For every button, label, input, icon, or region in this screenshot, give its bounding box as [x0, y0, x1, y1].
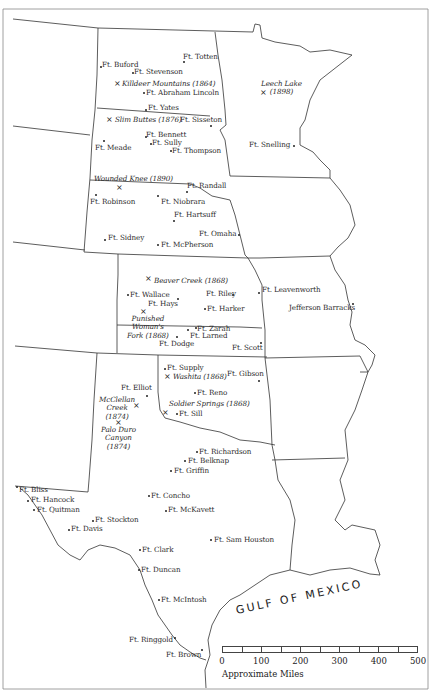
scale-bar-segments: [222, 646, 418, 653]
crossed-swords-battle-icon: ⨯: [116, 184, 123, 192]
fort-marker-icon: [104, 239, 106, 241]
fort-label: Ft. Hays: [148, 300, 178, 307]
fort-label: Ft. Leavenworth: [262, 286, 321, 293]
scale-segment: [399, 647, 418, 652]
fort-marker-icon: [27, 500, 29, 502]
crossed-swords-battle-icon: ⨯: [145, 275, 152, 283]
fort-label: Ft. Meade: [95, 144, 131, 151]
fort-marker-icon: [127, 294, 129, 296]
battle-label: Wounded Knee (1890): [94, 175, 173, 182]
fort-marker-icon: [139, 549, 141, 551]
fort-label: Ft. Riley: [206, 290, 236, 297]
fort-label: Ft. Sisseton: [180, 116, 222, 123]
battle-label: Punished Woman's Fork (1868): [127, 315, 169, 340]
fort-label: Ft. Abraham Lincoln: [146, 89, 219, 96]
fort-label: Ft. Randall: [187, 182, 226, 189]
scale-segment: [360, 647, 380, 652]
scale-tick-label: 400: [371, 656, 387, 666]
fort-marker-icon: [164, 368, 166, 370]
scale-tick-label: 200: [292, 656, 308, 666]
fort-label: Ft. Brown: [166, 651, 201, 658]
fort-marker-icon: [157, 244, 159, 246]
fort-marker-icon: [210, 125, 212, 127]
fort-marker-icon: [148, 495, 150, 497]
scale-units-label: Approximate Miles: [222, 669, 418, 679]
fort-marker-icon: [16, 486, 18, 488]
fort-label: Ft. Thompson: [172, 147, 221, 154]
crossed-swords-battle-icon: ⨯: [164, 373, 171, 381]
fort-label: Ft. Duncan: [141, 566, 180, 573]
fort-label: Ft. Concho: [151, 492, 190, 499]
scale-segment: [321, 647, 341, 652]
battle-label: Leech Lake (1898): [261, 80, 302, 97]
battle-label: Killdeer Mountains (1864): [122, 80, 216, 87]
fort-label: Ft. Gibson: [227, 370, 264, 377]
fort-label: Ft. Hancock: [31, 496, 74, 503]
fort-label: Ft. Belknap: [188, 457, 229, 464]
scale-segment: [301, 647, 321, 652]
fort-label: Ft. McIntosh: [161, 596, 207, 603]
fort-label: Ft. Sidney: [108, 234, 144, 241]
fort-label: Ft. Stockton: [95, 516, 139, 523]
fort-marker-icon: [196, 451, 198, 453]
crossed-swords-battle-icon: ⨯: [162, 409, 169, 417]
scale-tick-label: 0: [219, 656, 224, 666]
fort-label: Ft. Clark: [142, 546, 173, 553]
fort-label: Ft. Buford: [102, 61, 138, 68]
fort-marker-icon: [170, 470, 172, 472]
fort-marker-icon: [176, 413, 178, 415]
fort-label: Ft. Wallace: [130, 291, 170, 298]
fort-marker-icon: [68, 529, 70, 531]
battle-label: Slim Buttes (1876): [115, 116, 182, 123]
fort-marker-icon: [143, 92, 145, 94]
fort-marker-icon: [165, 510, 167, 512]
fort-label: Ft. Supply: [167, 364, 204, 371]
fort-marker-icon: [146, 395, 148, 397]
fort-marker-icon: [238, 234, 240, 236]
fort-label: Ft. Scott: [232, 344, 263, 351]
fort-label: Ft. McPherson: [161, 241, 213, 248]
fort-label: Jefferson Barracks: [289, 304, 355, 311]
scale-segment: [223, 647, 243, 652]
fort-label: Ft. Robinson: [90, 198, 135, 205]
scale-segment: [282, 647, 302, 652]
fort-marker-icon: [186, 191, 188, 193]
battle-label: Washita (1868): [173, 373, 227, 380]
fort-label: Ft. Totten: [183, 53, 218, 60]
fort-marker-icon: [92, 520, 94, 522]
fort-label: Ft. Dodge: [159, 340, 194, 347]
fort-marker-icon: [145, 109, 147, 111]
frontier-forts-map: Ft. TottenFt. BufordFt. StevensonFt. Abr…: [0, 0, 433, 693]
fort-label: Ft. Hartsuff: [174, 211, 216, 218]
fort-marker-icon: [173, 220, 175, 222]
fort-marker-icon: [103, 140, 105, 142]
scale-segment: [243, 647, 263, 652]
crossed-swords-battle-icon: ⨯: [106, 116, 113, 124]
scale-tick-label: 100: [253, 656, 269, 666]
fort-label: Ft. Davis: [71, 525, 103, 532]
fort-label: Ft. McKavett: [168, 506, 214, 513]
scale-segment: [379, 647, 399, 652]
fort-marker-icon: [33, 509, 35, 511]
fort-label: Ft. Reno: [197, 389, 227, 396]
fort-label: Ft. Ringgold: [129, 636, 173, 643]
fort-label: Ft. Quitman: [37, 506, 80, 513]
scale-tick-label: 500: [410, 656, 426, 666]
fort-label: Ft. Omaha: [199, 230, 236, 237]
fort-marker-icon: [183, 61, 185, 63]
fort-label: Ft. Sam Houston: [214, 536, 274, 543]
fort-marker-icon: [157, 195, 159, 197]
scale-segment: [262, 647, 282, 652]
fort-label: Ft. Bliss: [19, 486, 48, 493]
fort-marker-icon: [184, 460, 186, 462]
scale-segment: [340, 647, 360, 652]
fort-marker-icon: [95, 194, 97, 196]
fort-marker-icon: [258, 380, 260, 382]
fort-marker-icon: [204, 308, 206, 310]
fort-label: Ft. Yates: [148, 104, 179, 111]
fort-label: Ft. Snelling: [249, 141, 290, 148]
map-frame: [3, 9, 428, 689]
fort-label: Ft. Stevenson: [134, 68, 183, 75]
fort-marker-icon: [176, 336, 178, 338]
battle-label: Palo Duro Canyon (1874): [101, 426, 136, 451]
